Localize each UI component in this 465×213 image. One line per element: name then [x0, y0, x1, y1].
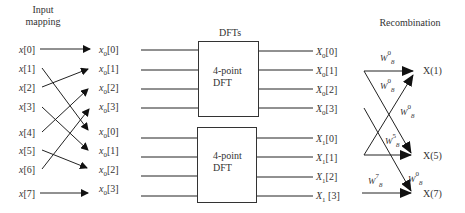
result-label: X(5) [423, 150, 442, 161]
input-label: x[0] [19, 44, 35, 55]
dft-block-top: 4-point DFT [198, 41, 259, 117]
dft-block-bottom: 4-point DFT [197, 127, 257, 203]
mapped-label: x0[2] [99, 164, 119, 180]
input-label: x[7] [19, 188, 35, 199]
input-label: x[2] [19, 82, 35, 93]
twiddle-factor: W08 [400, 103, 415, 120]
map-arrow-3 [42, 107, 88, 150]
input-label: x[3] [19, 101, 35, 112]
input-label: x[4] [19, 127, 35, 138]
map-arrow-6 [42, 109, 89, 169]
twiddle-factor: W78 [368, 172, 383, 189]
header-recombination: Recombination [360, 17, 460, 29]
twiddle-factor: W08 [380, 77, 395, 94]
dft-output-label: X0[2] [316, 84, 337, 100]
dft-block-label: 4-point DFT [213, 65, 242, 89]
mapped-label: x0[0] [99, 126, 119, 142]
header-input-line2: mapping [18, 16, 68, 28]
dft-output-label: X0[1] [316, 65, 337, 81]
dft-output-label: X1[0] [316, 133, 337, 149]
mapped-label: x0[2] [99, 82, 119, 98]
header-input-mapping: Input mapping [18, 4, 68, 28]
twiddle-factor: W08 [408, 170, 423, 187]
dft-output-label: X1[2] [316, 171, 337, 187]
result-label: X(7) [423, 188, 442, 199]
dft-block-label: 4-point DFT [213, 150, 242, 174]
mapped-label: x0[3] [99, 183, 119, 199]
mapped-label: x0[0] [99, 44, 119, 60]
result-label: X(1) [423, 65, 442, 76]
dft-output-label: X0[3] [316, 103, 337, 119]
header-dfts: DFTs [200, 27, 260, 39]
twiddle-factor: W58 [385, 132, 400, 149]
mapped-label: x0[3] [99, 101, 119, 117]
input-label: x[1] [19, 63, 35, 74]
map-arrow-4 [42, 89, 88, 132]
input-label: x[5] [19, 145, 35, 156]
dft-output-label: X1[1] [316, 152, 337, 168]
dft-output-label: X0[0] [316, 46, 337, 62]
dft-output-label: X1 [3] [316, 190, 340, 206]
input-label: x[6] [19, 164, 35, 175]
header-input-line1: Input [18, 4, 68, 16]
mapped-label: x0[1] [99, 145, 119, 161]
map-arrow-1 [42, 68, 88, 130]
twiddle-factor: W08 [380, 49, 395, 66]
map-arrow-5 [42, 150, 87, 168]
mapped-label: x0[1] [99, 63, 119, 79]
